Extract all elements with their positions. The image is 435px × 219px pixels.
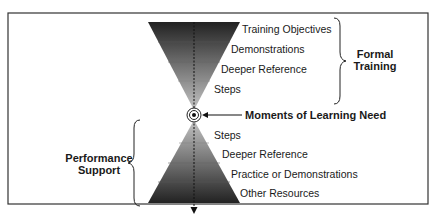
formal-training-label: Training: [354, 60, 397, 72]
performance-support-label: Support: [78, 164, 120, 176]
bottom-item-label: Other Resources: [240, 187, 319, 199]
formal-training-label: Formal: [357, 48, 394, 60]
bottom-item-label: Deeper Reference: [222, 148, 308, 160]
top-item-label: Training Objectives: [242, 23, 331, 35]
pointer-arrow-icon: [202, 112, 208, 118]
top-item-label: Steps: [214, 83, 241, 95]
bottom-item-label: Steps: [214, 129, 241, 141]
axis-arrow-icon: [191, 207, 198, 214]
performance-support-label: Performance: [65, 152, 132, 164]
bottom-item-label: Practice or Demonstrations: [231, 168, 358, 180]
formal-training-brace: [334, 18, 346, 104]
hourglass-diagram: Moments of Learning Need Training Object…: [0, 0, 435, 219]
top-item-label: Deeper Reference: [221, 63, 307, 75]
center-label: Moments of Learning Need: [245, 109, 386, 121]
top-item-label: Demonstrations: [231, 43, 305, 55]
learning-need-target-icon: [187, 108, 201, 122]
